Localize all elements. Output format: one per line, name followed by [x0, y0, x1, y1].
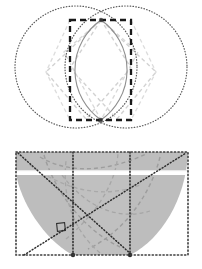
bottom-intersection-point	[99, 118, 103, 122]
arc-fill-figure	[0, 135, 202, 269]
inscribed-diamond-right	[70, 20, 156, 119]
white-band-highlight	[16, 170, 188, 171]
construction-chord-right	[131, 20, 156, 120]
left-circle	[15, 6, 137, 128]
lens-left-arc	[75, 20, 101, 120]
vesica-figure	[0, 0, 202, 135]
diagram-page	[0, 0, 202, 269]
construction-chord-left	[46, 20, 70, 120]
top-intersection-point	[99, 18, 103, 22]
bounding-rectangle	[70, 20, 131, 120]
right-circle	[65, 6, 187, 128]
